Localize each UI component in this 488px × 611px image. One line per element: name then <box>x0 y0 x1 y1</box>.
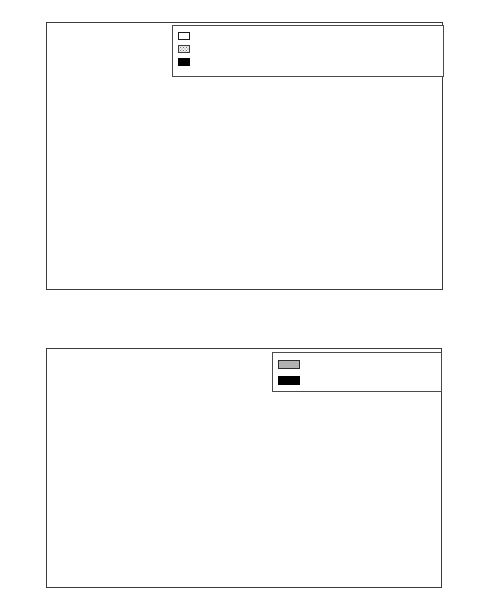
legend-swatch-open-icon <box>178 32 190 40</box>
bottom-chart <box>0 320 488 611</box>
legend-item <box>178 55 437 68</box>
legend-item <box>278 372 435 388</box>
legend-item <box>178 29 437 42</box>
legend-swatch-gray-icon <box>278 360 300 369</box>
legend-swatch-solid-icon <box>278 376 300 385</box>
legend-item <box>278 356 435 372</box>
top-chart-legend <box>172 25 444 77</box>
legend-swatch-solid-icon <box>178 58 190 66</box>
legend-swatch-dotted-icon <box>178 45 190 53</box>
legend-item <box>178 42 437 55</box>
bottom-chart-legend <box>272 352 442 392</box>
top-chart <box>0 0 488 320</box>
